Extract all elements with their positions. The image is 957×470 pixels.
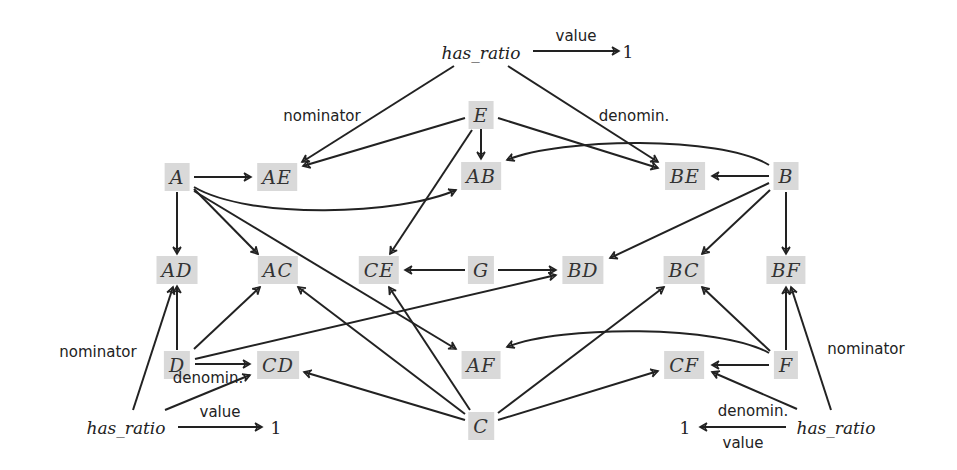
node-AF: AF (462, 351, 501, 379)
value-one-bottom-left: 1 (271, 418, 282, 438)
node-CD: CD (257, 351, 299, 379)
edge-B-BD (610, 183, 769, 258)
edge-E-AE (303, 118, 465, 166)
node-CF: CF (664, 351, 704, 379)
has-ratio-top: has_ratio (441, 43, 520, 63)
denominator-label-bottom-right: denomin. (718, 402, 789, 420)
node-BF: BF (766, 256, 805, 284)
edge-F-AF (507, 331, 769, 353)
edge-ratio-bl-nominator (133, 287, 173, 410)
denominator-label-top: denomin. (599, 107, 670, 125)
denominator-label-bottom-left: denomin. (173, 369, 244, 387)
edge-E-CE (390, 130, 472, 254)
ratio-graph-diagram: A AE E AB BE B AD AC CE G BD BC BF D CD … (0, 0, 957, 470)
node-B: B (774, 162, 799, 190)
node-AD: AD (157, 256, 198, 284)
value-one-bottom-right: 1 (680, 418, 691, 438)
node-C: C (468, 412, 494, 440)
node-CE: CE (359, 256, 399, 284)
edge-ratio-br-nominator (791, 287, 831, 410)
edge-A-AB (194, 187, 456, 210)
nominator-label-bottom-right: nominator (827, 340, 904, 358)
has-ratio-bottom-right: has_ratio (796, 418, 875, 438)
nominator-label-top: nominator (283, 107, 360, 125)
node-BC: BC (664, 256, 705, 284)
node-BE: BE (665, 162, 705, 190)
node-AE: AE (257, 163, 297, 191)
value-one-top: 1 (623, 42, 634, 62)
nominator-label-bottom-left: nominator (59, 343, 136, 361)
node-G: G (468, 256, 494, 284)
value-label-bottom-right: value (723, 434, 764, 452)
edges-layer (0, 0, 957, 470)
value-label-top: value (556, 27, 597, 45)
node-AB: AB (461, 162, 501, 190)
node-F: F (774, 351, 798, 379)
node-A: A (165, 163, 190, 191)
node-AC: AC (258, 256, 298, 284)
node-E: E (469, 101, 494, 129)
has-ratio-bottom-left: has_ratio (86, 418, 165, 438)
value-label-bottom-left: value (200, 403, 241, 421)
node-BD: BD (562, 256, 603, 284)
edge-D-AC (194, 287, 260, 349)
